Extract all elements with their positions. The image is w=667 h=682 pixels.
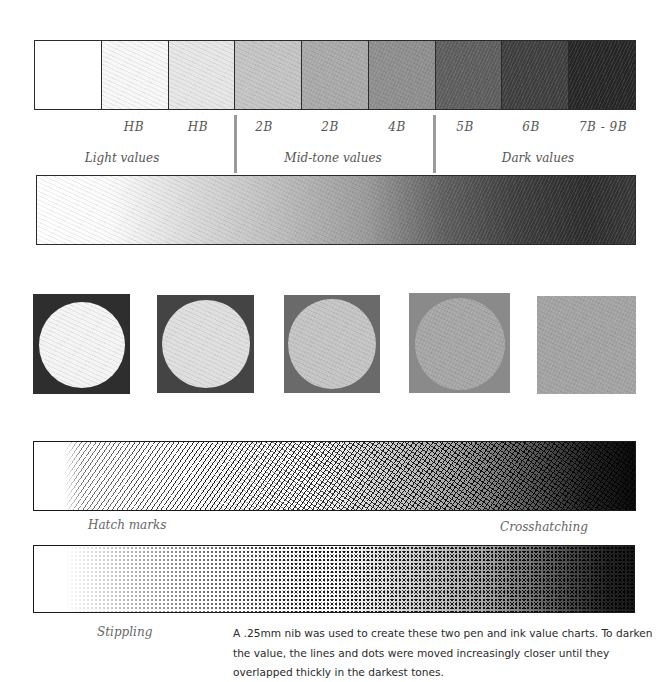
grade-label-hb-1: HB — [124, 120, 144, 134]
swatch-2-hb — [102, 41, 169, 109]
swatch-9-7b-9b — [569, 41, 635, 109]
swatch-7-5b — [436, 41, 503, 109]
grade-label-6b: 6B — [522, 120, 539, 134]
circle-study-4 — [409, 293, 510, 393]
hatch-marks-label: Hatch marks — [88, 518, 166, 532]
circle-study-5 — [537, 296, 636, 394]
graphite-gradient-bar — [36, 175, 636, 245]
grade-label-5b: 5B — [456, 120, 473, 134]
circle-1 — [39, 302, 125, 388]
grade-label-2b-1: 2B — [255, 120, 272, 134]
group-separator-1 — [234, 115, 237, 173]
swatch-4-2b — [235, 41, 302, 109]
circle-study-1 — [33, 294, 130, 394]
swatch-8-6b — [502, 41, 569, 109]
grade-label-hb-2: HB — [188, 120, 208, 134]
grade-label-7b-9b: 7B - 9B — [579, 120, 627, 134]
circle-study-2 — [157, 295, 254, 393]
circle-3 — [288, 299, 376, 389]
swatch-1 — [35, 41, 102, 109]
group-separator-2 — [433, 115, 436, 173]
hatching-value-bar — [33, 441, 636, 511]
stippling-label: Stippling — [97, 625, 152, 639]
circle-4 — [415, 298, 505, 390]
stippling-value-bar — [33, 545, 635, 613]
value-scale-swatches — [34, 40, 636, 110]
swatch-5-2b — [302, 41, 369, 109]
circle-study-3 — [284, 295, 380, 393]
circle-2 — [162, 300, 250, 388]
crosshatching-label: Crosshatching — [500, 520, 588, 534]
caption-text: A .25mm nib was used to create these two… — [233, 624, 653, 682]
group-label-light: Light values — [85, 151, 160, 165]
swatch-6-4b — [369, 41, 436, 109]
group-label-mid: Mid-tone values — [284, 151, 381, 165]
group-label-dark: Dark values — [502, 151, 574, 165]
grade-label-2b-2: 2B — [321, 120, 338, 134]
grade-label-4b: 4B — [388, 120, 405, 134]
swatch-3-hb — [169, 41, 236, 109]
